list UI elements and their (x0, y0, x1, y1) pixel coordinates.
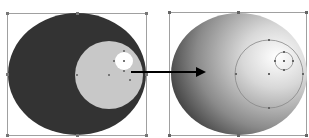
diagram-canvas (0, 0, 309, 138)
right-figure (168, 11, 308, 137)
left-figure (6, 12, 148, 137)
gradient-ellipse[interactable] (171, 13, 307, 135)
